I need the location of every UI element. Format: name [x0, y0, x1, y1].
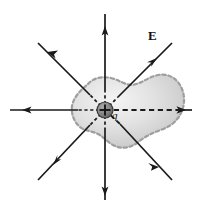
field-line-lower-left: [38, 110, 105, 180]
field-diagram-canvas: [0, 0, 198, 206]
electric-field-label: E: [148, 29, 157, 42]
point-charge-group: [97, 102, 113, 118]
gaussian-surface-blob: [72, 75, 184, 148]
charge-label: q: [112, 110, 118, 121]
gauss-law-figure: E q: [0, 0, 198, 206]
gaussian-surface-group: [72, 75, 184, 148]
field-line-upper-left: [38, 43, 105, 110]
